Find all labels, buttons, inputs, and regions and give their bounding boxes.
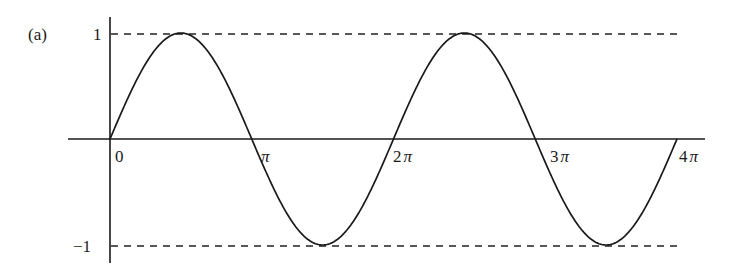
panel-label: (a) (28, 25, 47, 44)
x-tick-label-2pi: 2π (393, 147, 413, 166)
sine-chart: (a) 1 −1 0 π 2π 3π 4π (0, 0, 744, 275)
x-tick-label-3pi: 3π (550, 147, 570, 166)
x-tick-label-4pi: 4π (679, 147, 699, 166)
y-tick-label-1: 1 (93, 25, 102, 44)
x-tick-label-0: 0 (115, 147, 124, 166)
x-tick-label-pi: π (261, 147, 270, 166)
y-tick-label-neg1: −1 (73, 237, 91, 256)
